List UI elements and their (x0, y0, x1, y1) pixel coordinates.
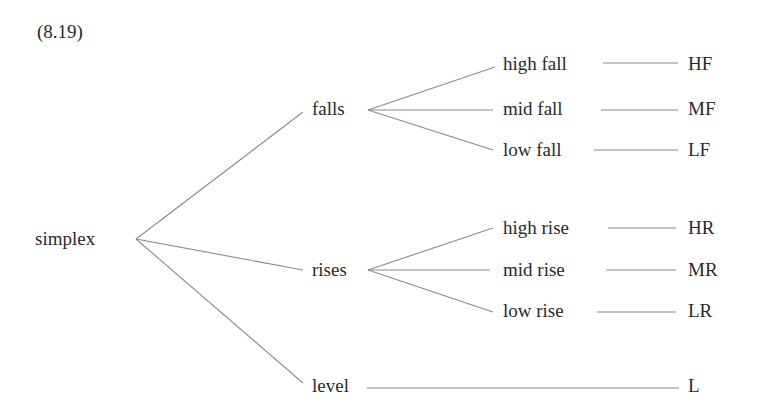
code-hf: HF (688, 53, 712, 75)
node-mid-fall: mid fall (503, 98, 563, 120)
code-lr: LR (688, 300, 712, 322)
edge-simplex-level (136, 239, 303, 383)
node-falls: falls (312, 98, 345, 120)
edge-rises-low (368, 270, 493, 312)
code-mf: MF (688, 98, 715, 120)
edge-simplex-falls (136, 112, 303, 239)
node-low-rise: low rise (503, 300, 564, 322)
code-hr: HR (688, 217, 714, 239)
node-high-fall: high fall (503, 53, 567, 75)
edge-falls-high (368, 67, 495, 110)
node-low-fall: low fall (503, 139, 562, 161)
node-mid-rise: mid rise (503, 259, 565, 281)
example-number: (8.19) (37, 21, 83, 43)
node-simplex: simplex (35, 228, 95, 250)
node-rises: rises (312, 259, 347, 281)
node-high-rise: high rise (503, 217, 569, 239)
edge-simplex-rises (136, 239, 303, 270)
edge-rises-high (368, 228, 493, 270)
code-l: L (688, 375, 700, 397)
tree-connector-lines (0, 0, 757, 415)
node-level: level (312, 375, 349, 397)
code-mr: MR (688, 259, 718, 281)
edge-falls-low (368, 110, 493, 150)
code-lf: LF (688, 139, 710, 161)
